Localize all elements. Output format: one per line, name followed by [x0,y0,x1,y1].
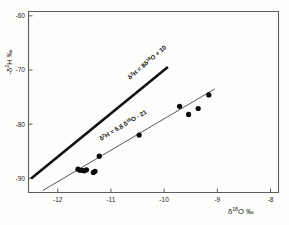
data-point [92,169,97,174]
x-axis-title: δ18O ‰ [228,206,254,216]
data-point [97,154,102,159]
data-point [206,92,211,97]
figure-container: -12-11-10-9-8 -60-70-80-90 δ2H = 8δ18O +… [0,0,289,225]
data-point [84,167,89,172]
y-tick-label: -80 [15,121,25,128]
y-axis-title-text: -δ2H ‰ [4,49,14,74]
x-tick-label: -12 [53,196,63,203]
x-tick-label: -9 [214,196,220,203]
y-tick-label: -60 [15,12,25,19]
x-tick-label: -8 [268,196,274,203]
x-tick-label: -10 [159,196,169,203]
data-point [186,112,191,117]
x-axis-title-text: δ18O ‰ [228,206,254,216]
data-point [177,104,182,109]
y-axis-title: -δ2H ‰ [4,49,14,74]
data-point [196,106,201,111]
data-point [137,132,142,137]
y-tick-label: -90 [15,175,25,182]
isotope-cross-plot: -12-11-10-9-8 -60-70-80-90 δ2H = 8δ18O +… [0,0,289,225]
x-tick-label: -11 [106,196,115,203]
y-tick-label: -70 [15,66,25,73]
